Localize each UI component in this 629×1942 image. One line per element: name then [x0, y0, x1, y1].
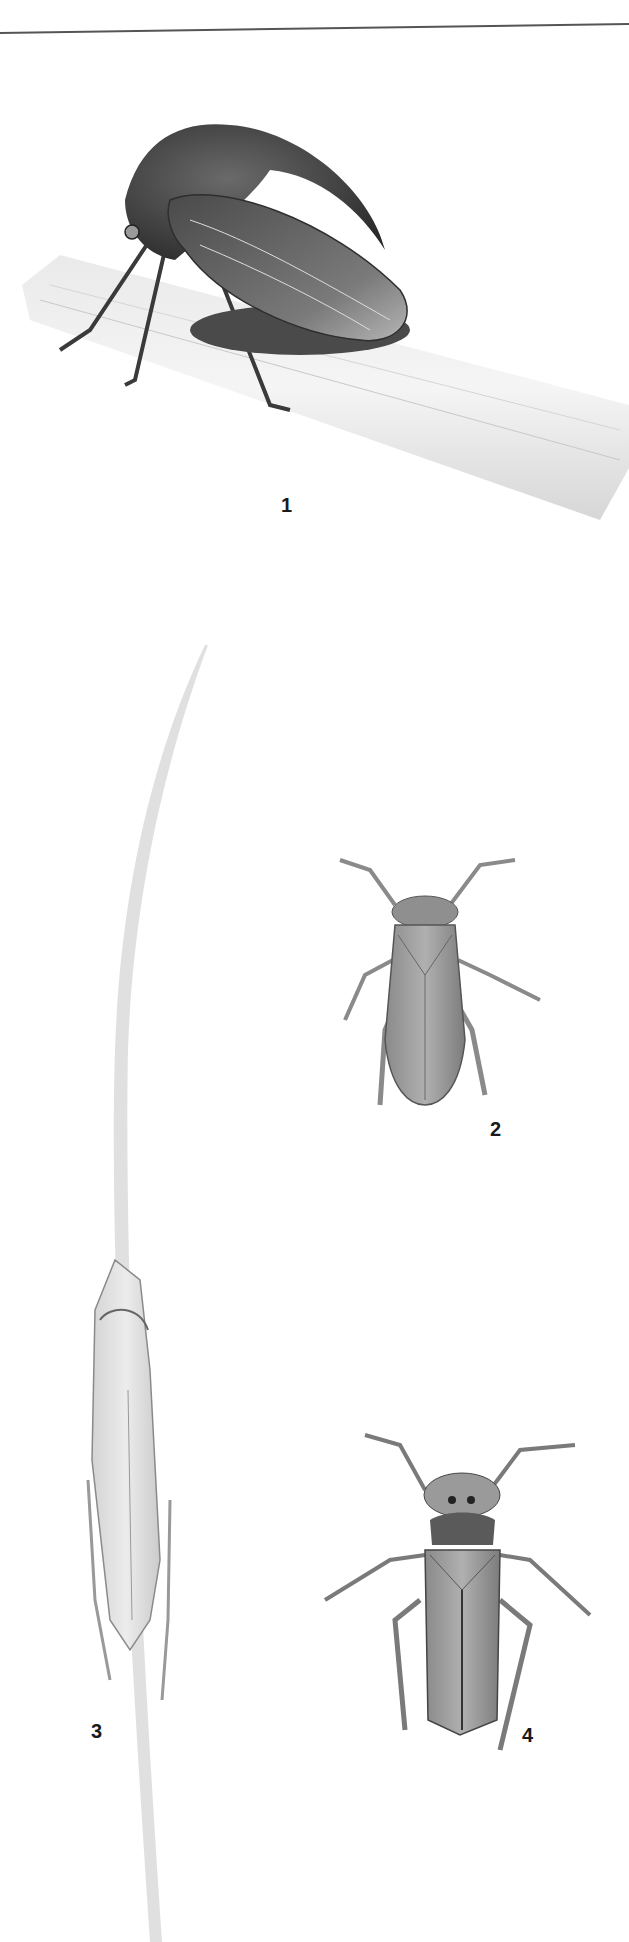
top-rule [0, 24, 629, 33]
eye [125, 225, 139, 239]
figure-label-2: 2 [490, 1118, 501, 1141]
figure-label-4: 4 [522, 1724, 533, 1747]
figure-label-1: 1 [281, 494, 292, 517]
figure-1-treehopper [22, 124, 629, 520]
figure-label-3: 3 [91, 1720, 102, 1743]
figure-3-leafhopper-on-grass [88, 645, 208, 1942]
figure-4-leafhopper [325, 1435, 590, 1750]
figure-2-leafhopper [340, 860, 540, 1105]
illustration-plate [0, 0, 629, 1942]
